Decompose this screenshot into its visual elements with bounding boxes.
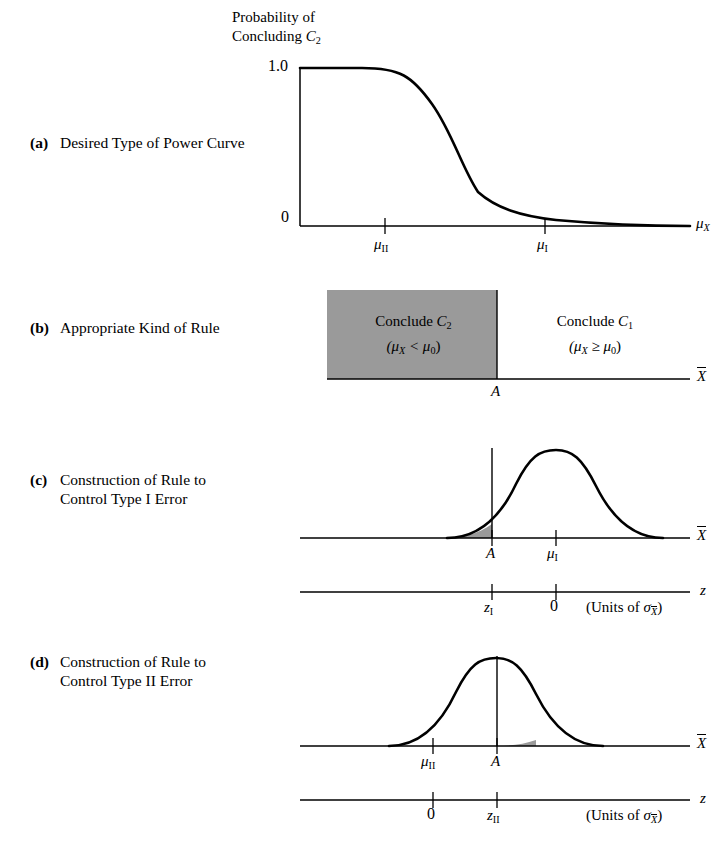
panel-d-z-sub: II bbox=[493, 814, 500, 825]
panel-d-mu: μ bbox=[421, 753, 429, 769]
panel-d-ztick-0-label: 0 bbox=[427, 805, 435, 823]
panel-d-units-suffix: ) bbox=[657, 807, 662, 823]
panel-d-normal-curve bbox=[389, 658, 603, 746]
panel-d-mu-sub: II bbox=[429, 760, 436, 771]
panel-d-tag: (d) bbox=[30, 652, 60, 671]
panel-d-sigma-sub: X bbox=[651, 814, 657, 825]
panel-d-sigma: σ bbox=[644, 807, 651, 823]
panel-d-shaded-tail bbox=[497, 740, 536, 746]
panel-d-caption-line2: Control Type II Error bbox=[60, 671, 206, 690]
panel-d-units-prefix: (Units of bbox=[586, 807, 644, 823]
panel-d-caption: (d)Construction of Rule to Control Type … bbox=[30, 652, 206, 690]
panel-d-zlabel: z bbox=[700, 790, 706, 806]
panel-d-xtick-mu-II-label: μII bbox=[421, 753, 435, 771]
panel-d-caption-line1: Construction of Rule to bbox=[60, 652, 206, 671]
panel-d-ztick-zII-label: zII bbox=[487, 807, 500, 825]
panel-d-units-label: (Units of σX) bbox=[586, 807, 662, 825]
panel-d-A: A bbox=[491, 753, 500, 769]
panel-d-xtick-A-label: A bbox=[491, 753, 500, 770]
panel-d-z-axis-label: z bbox=[700, 790, 706, 807]
panel-d-plot bbox=[0, 0, 728, 844]
panel-d-xbar: X bbox=[697, 735, 706, 752]
panel-d-x-axis-label: X bbox=[697, 735, 706, 752]
